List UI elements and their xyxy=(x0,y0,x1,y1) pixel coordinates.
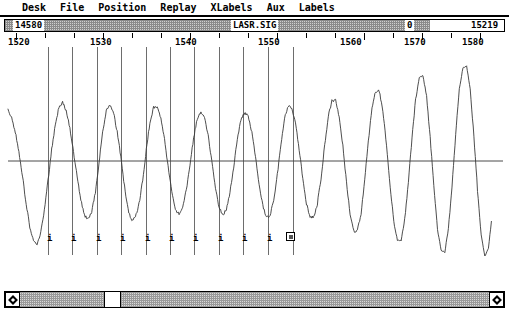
signal-viewer-window: Desk File Position Replay XLabels Aux La… xyxy=(0,0,509,319)
menu-item-xlabels[interactable]: XLabels xyxy=(210,2,252,14)
ruler-tick xyxy=(248,33,249,38)
ruler-label: 1570 xyxy=(404,37,426,47)
scroll-right-button[interactable] xyxy=(489,292,504,307)
x-axis-ruler: 1520153015401550156015701580 xyxy=(0,33,509,47)
marker-label: i xyxy=(193,234,198,243)
selected-marker-fill xyxy=(289,235,293,239)
ruler-tick xyxy=(335,33,336,38)
range-start-value: 14580 xyxy=(13,20,44,31)
ruler-label: 1530 xyxy=(90,37,112,47)
ruler-tick xyxy=(364,33,365,40)
selected-marker-box[interactable] xyxy=(286,232,295,241)
ruler-tick xyxy=(132,33,133,38)
ruler-label: 1540 xyxy=(175,37,197,47)
scroll-right-icon xyxy=(492,295,502,305)
title-position-bar[interactable]: 14580 LASR.SIG 0 15219 xyxy=(4,19,505,32)
marker-label: i xyxy=(242,234,247,243)
ruler-label: 1560 xyxy=(340,37,362,47)
marker-label: i xyxy=(47,234,52,243)
menu-item-aux[interactable]: Aux xyxy=(267,2,285,14)
scrollbar-thumb[interactable] xyxy=(104,292,121,307)
marker-lines-group xyxy=(49,47,294,255)
ruler-tick xyxy=(451,33,452,38)
ruler-tick xyxy=(306,33,307,38)
ruler-tick xyxy=(219,33,220,38)
ruler-tick xyxy=(393,33,394,38)
ruler-tick xyxy=(45,33,46,38)
marker-label: i xyxy=(96,234,101,243)
waveform-plot[interactable]: iiiiiiiiii xyxy=(0,47,509,279)
marker-label: i xyxy=(120,234,125,243)
ruler-label: 1580 xyxy=(462,37,484,47)
ruler-label: 1550 xyxy=(258,37,280,47)
menu-item-labels[interactable]: Labels xyxy=(299,2,335,14)
scroll-left-button[interactable] xyxy=(5,292,20,307)
marker-label: i xyxy=(267,234,272,243)
menu-item-file[interactable]: File xyxy=(60,2,84,14)
menu-item-desk[interactable]: Desk xyxy=(22,2,46,14)
menu-bar: Desk File Position Replay XLabels Aux La… xyxy=(0,0,509,17)
window-title: LASR.SIG xyxy=(231,20,278,31)
marker-label: i xyxy=(169,234,174,243)
marker-label: i xyxy=(218,234,223,243)
ruler-tick xyxy=(161,33,162,38)
menu-item-position[interactable]: Position xyxy=(98,2,146,14)
ruler-label: 1520 xyxy=(8,37,30,47)
scrollbar-track[interactable] xyxy=(20,292,489,307)
range-end-value: 15219 xyxy=(469,20,500,31)
waveform-svg xyxy=(0,47,509,279)
horizontal-scrollbar[interactable] xyxy=(4,291,505,308)
ruler-tick xyxy=(74,33,75,38)
menu-item-replay[interactable]: Replay xyxy=(160,2,196,14)
cursor-offset-value: 0 xyxy=(405,20,414,31)
marker-label: i xyxy=(71,234,76,243)
marker-label: i xyxy=(145,234,150,243)
scroll-left-icon xyxy=(8,295,18,305)
